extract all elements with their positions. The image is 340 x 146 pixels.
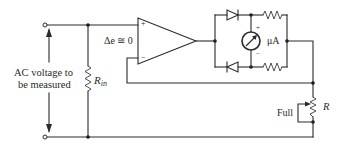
rin-resistor — [85, 25, 91, 137]
potentiometer-r — [298, 97, 316, 137]
rin-label-main: R — [94, 74, 101, 86]
feedback-wire — [127, 58, 313, 83]
r-label: R — [323, 102, 329, 113]
meter-plus-label: + — [256, 25, 260, 32]
junction-dot — [86, 23, 90, 27]
input-terminal-top — [43, 23, 47, 27]
junction-dot — [86, 135, 90, 139]
diode-top-icon — [227, 10, 238, 20]
resistor-top — [263, 11, 282, 19]
input-terminal-bottom — [43, 135, 47, 139]
diode-bottom-icon — [227, 62, 238, 72]
rin-label: Rin — [94, 75, 107, 88]
junction-dot — [311, 81, 315, 85]
pot-full-label: Full — [277, 108, 293, 118]
resistor-bottom — [263, 63, 282, 71]
meter-unit-label: μA — [267, 36, 280, 46]
op-amp — [138, 18, 215, 64]
output-wire — [287, 41, 313, 97]
delta-e-label: Δe ≅ 0 — [104, 36, 133, 46]
opamp-minus-label: − — [141, 54, 146, 62]
microammeter-icon — [242, 32, 260, 50]
input-label-line2: be measured — [18, 80, 71, 91]
opamp-plus-label: + — [141, 20, 146, 28]
input-label-line1: AC voltage to — [14, 68, 73, 79]
rin-label-sub: in — [101, 79, 107, 88]
meter-minus-label: − — [256, 51, 260, 58]
